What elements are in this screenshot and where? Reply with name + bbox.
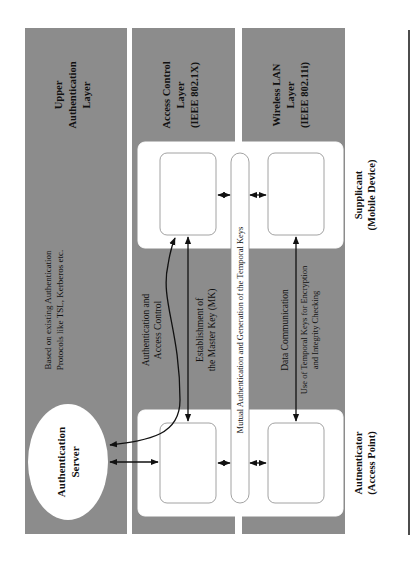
svg-text:(Mobile Device): (Mobile Device): [366, 159, 378, 230]
svg-text:Data Communication: Data Communication: [280, 289, 290, 371]
svg-text:Wireless LAN: Wireless LAN: [271, 63, 282, 126]
svg-text:the Master Key (MK): the Master Key (MK): [207, 289, 218, 372]
supplicant-access-control-box: [160, 153, 216, 235]
svg-text:(IEEE 802.1X): (IEEE 802.1X): [189, 62, 201, 128]
svg-text:Authentication: Authentication: [67, 61, 78, 128]
svg-text:Layer: Layer: [81, 81, 92, 108]
authenticator-wlan-box: [268, 423, 324, 503]
data-communication-annotation: Data Communication: [280, 289, 290, 371]
svg-text:and Integrity Checking: and Integrity Checking: [310, 290, 320, 369]
svg-text:Layer: Layer: [285, 81, 296, 108]
security-architecture-diagram: Upper Authentication Layer Access Contro…: [0, 0, 417, 569]
svg-text:Authentication: Authentication: [55, 427, 67, 497]
temporal-keys-annotation: Mutual Authentication and Generation of …: [235, 227, 245, 434]
authenticator-label: Autnenticator (Access Point): [353, 431, 378, 495]
supplicant-wlan-box: [268, 153, 324, 235]
svg-text:Mutual Authentication and Gene: Mutual Authentication and Generation of …: [235, 227, 245, 434]
svg-text:(IEEE 802.11i): (IEEE 802.11i): [299, 62, 311, 128]
svg-text:Supplicant: Supplicant: [353, 170, 364, 219]
svg-text:Protocols like TSL, Kerberos e: Protocols like TSL, Kerberos etc.: [55, 250, 65, 370]
supplicant-label: Supplicant (Mobile Device): [353, 159, 378, 230]
svg-text:Autnenticator: Autnenticator: [353, 431, 364, 494]
svg-text:(Access Point): (Access Point): [366, 431, 378, 495]
svg-text:Access Control: Access Control: [161, 61, 172, 128]
svg-text:Server: Server: [69, 446, 81, 477]
svg-text:Authentication and: Authentication and: [141, 293, 151, 366]
master-key-annotation: Establishment of the Master Key (MK): [195, 289, 218, 372]
svg-text:Access Control: Access Control: [153, 300, 163, 359]
svg-text:Use of Temporal Keys for Encry: Use of Temporal Keys for Encryption: [299, 265, 309, 394]
authenticator-access-control-box: [160, 423, 216, 503]
svg-text:Based on existing Authenticati: Based on existing Authentication: [43, 250, 53, 370]
authentication-server-ellipse: [28, 404, 108, 520]
svg-text:Layer: Layer: [175, 81, 186, 108]
svg-text:Establishment of: Establishment of: [195, 297, 205, 362]
svg-text:Upper: Upper: [53, 80, 64, 109]
